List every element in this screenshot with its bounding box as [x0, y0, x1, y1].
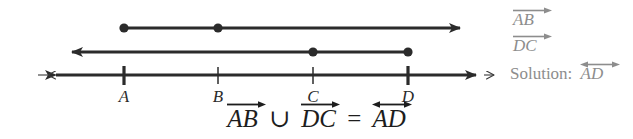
ray-dc-point-dot-c	[308, 47, 317, 56]
solution-prefix: Solution:	[510, 64, 572, 83]
geometry-diagram: A B C D AB DC Solution:	[0, 0, 633, 139]
point-label-b: B	[203, 88, 233, 105]
ray-ab-endpoint-dot-a	[119, 23, 128, 32]
equation-result-term: AD	[373, 105, 406, 133]
equation-union-operator: ∪	[264, 105, 295, 132]
equation-right-term: DC	[301, 105, 336, 133]
point-label-a: A	[109, 88, 139, 105]
equation-left-term: AB	[227, 105, 258, 133]
ray-ab-point-dot-b	[213, 23, 222, 32]
point-label-d: D	[393, 88, 423, 105]
side-label-ray-dc: DC	[513, 36, 537, 54]
ray-ab-group	[119, 23, 460, 32]
equation: AB ∪ DC = AD	[0, 104, 633, 133]
side-label-ray-ab-text: AB	[513, 11, 534, 28]
solution-label: Solution: AD	[510, 64, 603, 82]
side-label-ray-ab: AB	[513, 10, 534, 28]
solution-segment: AD	[581, 65, 604, 82]
ray-dc-endpoint-dot-d	[403, 47, 412, 56]
ray-dc-group	[72, 47, 413, 56]
number-line-group	[38, 66, 494, 85]
equation-equals-sign: =	[342, 105, 366, 132]
point-label-c: C	[298, 88, 328, 105]
side-label-ray-dc-text: DC	[513, 37, 537, 54]
